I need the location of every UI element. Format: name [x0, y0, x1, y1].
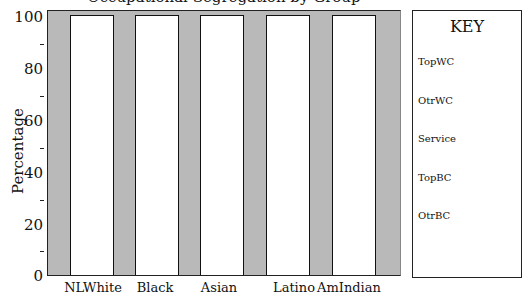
y-minor-tick: [40, 200, 44, 201]
legend-item-otrwc: OtrWC: [418, 95, 453, 106]
legend-item-topbc: TopBC: [418, 172, 452, 183]
chart-title: Occupational Segregation by Group: [47, 0, 401, 6]
x-label-amindian: AmIndian: [314, 280, 384, 295]
bar-amindian: [332, 15, 376, 275]
y-tick-20: 20: [24, 218, 43, 233]
y-minor-tick: [40, 251, 44, 252]
x-label-black: Black: [120, 280, 190, 295]
plot-area: [47, 10, 401, 276]
bar-black: [135, 15, 179, 275]
y-minor-tick: [40, 44, 44, 45]
y-minor-tick: [40, 148, 44, 149]
y-minor-tick: [40, 96, 44, 97]
x-label-nlwhite: NLWhite: [58, 280, 128, 295]
x-label-asian: Asian: [184, 280, 254, 295]
legend-title: KEY: [413, 17, 521, 36]
y-tick-40: 40: [24, 166, 43, 181]
y-tick-100: 100: [14, 10, 43, 25]
y-tick-80: 80: [24, 62, 43, 77]
bar-nlwhite: [70, 15, 114, 275]
y-tick-0: 0: [33, 269, 43, 284]
bar-asian: [200, 15, 244, 275]
legend-item-otrbc: OtrBC: [418, 210, 450, 221]
legend-key: KEY TopWC OtrWC Service TopBC OtrBC: [412, 10, 522, 278]
y-tick-60: 60: [24, 114, 43, 129]
bar-latino: [266, 15, 310, 275]
legend-item-topwc: TopWC: [418, 56, 454, 67]
legend-item-service: Service: [418, 133, 456, 144]
